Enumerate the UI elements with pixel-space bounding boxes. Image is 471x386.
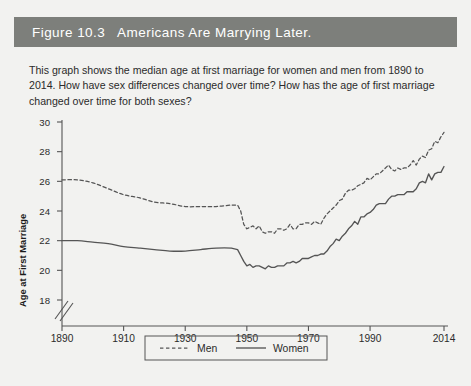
axis-break-icon	[55, 301, 73, 321]
x-tick-label: 1910	[112, 333, 135, 344]
line-chart: 18202224262830 1890191019301950197019902…	[14, 112, 457, 367]
x-tick-label: 1890	[51, 333, 74, 344]
x-tick-label: 2014	[433, 333, 456, 344]
y-axis-tick-labels: 18202224262830	[39, 117, 50, 306]
figure-title: Figure 10.3 Americans Are Marrying Later…	[14, 25, 312, 40]
y-tick-label: 26	[39, 176, 50, 187]
y-tick-label: 30	[39, 117, 50, 128]
series-line-men	[62, 132, 444, 233]
x-tick-label: 1990	[359, 333, 382, 344]
figure-description: This graph shows the median age at first…	[29, 63, 447, 109]
x-tick-label: 1950	[236, 333, 259, 344]
x-tick-label: 1930	[174, 333, 197, 344]
figure-page: Figure 10.3 Americans Are Marrying Later…	[0, 0, 471, 386]
y-tick-label: 20	[39, 265, 50, 276]
x-axis-tick-labels: 1890191019301950197019902014	[51, 333, 456, 344]
y-tick-label: 24	[39, 206, 50, 217]
y-tick-label: 22	[39, 235, 50, 246]
x-axis-tick-marks	[62, 326, 444, 331]
figure-title-bar: Figure 10.3 Americans Are Marrying Later…	[14, 17, 457, 47]
legend-label-women: Women	[273, 343, 309, 354]
series-line-women	[62, 167, 444, 269]
y-axis-tick-marks	[57, 122, 62, 300]
chart-container: 18202224262830 1890191019301950197019902…	[14, 112, 457, 367]
y-axis-title: Age at First Marriage	[17, 214, 28, 307]
y-tick-label: 28	[39, 146, 50, 157]
y-tick-label: 18	[39, 295, 50, 306]
legend-label-men: Men	[197, 343, 217, 354]
